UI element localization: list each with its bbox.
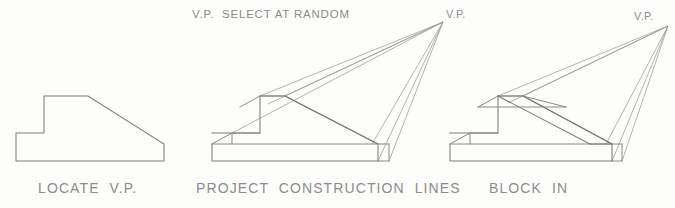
figure-locate-vp bbox=[16, 96, 164, 161]
receding-edge-lower-left bbox=[212, 133, 232, 144]
slope-face-edge-fig2 bbox=[285, 96, 378, 144]
drawing-canvas bbox=[0, 0, 675, 208]
construction-line-base-front bbox=[378, 22, 443, 161]
random-note-text: SELECT AT RANDOM bbox=[222, 8, 350, 20]
construction-line-base-front-fig3 bbox=[612, 26, 668, 161]
profile-outline-fig2 bbox=[212, 96, 378, 161]
random-note-vp-label: V.P. bbox=[192, 8, 214, 20]
vp-label-middle: V.P. bbox=[446, 8, 466, 20]
slope-face-front-edge-fig3 bbox=[523, 96, 612, 144]
caption-locate-vp: LOCATE V.P. bbox=[38, 180, 137, 196]
figure-block-in bbox=[450, 26, 668, 161]
caption-block-in: BLOCK IN bbox=[489, 180, 568, 196]
receding-edge-lower-left-fig3 bbox=[450, 133, 470, 144]
construction-line-rear-top-fig3 bbox=[498, 26, 668, 96]
receding-edge-upper-left-fig3 bbox=[478, 96, 498, 107]
construction-line-slope-apex bbox=[268, 22, 443, 104]
perspective-drawing-page: V.P. SELECT AT RANDOM V.P. V.P. LOCATE V… bbox=[0, 0, 675, 208]
profile-outline-fig3 bbox=[450, 96, 612, 161]
slope-face-rear-edge-fig3 bbox=[498, 96, 590, 144]
construction-line-apex-fig3 bbox=[508, 26, 668, 103]
construction-line-base-rear bbox=[389, 22, 443, 161]
receding-edge-upper-left bbox=[240, 96, 260, 107]
caption-project-construction-lines: PROJECT CONSTRUCTION LINES bbox=[196, 180, 461, 196]
vp-label-right: V.P. bbox=[634, 10, 654, 22]
construction-line-step-top bbox=[232, 22, 443, 133]
profile-outline-fig1 bbox=[16, 96, 164, 161]
construction-line-base-rear-fig3 bbox=[622, 26, 668, 161]
figure-project-construction-lines bbox=[212, 22, 443, 161]
top-face-right-edge-fig3 bbox=[523, 96, 566, 107]
construction-line-wedge-fig3 bbox=[606, 26, 668, 144]
construction-line-top-rear bbox=[260, 22, 443, 96]
